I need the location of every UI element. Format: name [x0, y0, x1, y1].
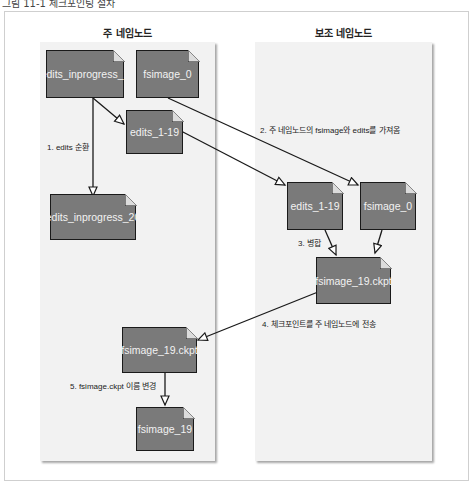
step-1-label: 1. edits 순환 — [47, 141, 89, 152]
page-fold-icon — [186, 327, 198, 339]
node-fsimage-0-secondary: fsimage_0 — [360, 182, 416, 230]
step-5-label: 5. fsimage.ckpt 이름 변경 — [70, 380, 156, 391]
node-fsimage-19-ckpt-secondary: fsimage_19.ckpt — [316, 257, 391, 304]
node-fsimage-0-primary: fsimage_0 — [136, 50, 199, 98]
page-fold-icon — [125, 194, 137, 206]
secondary-namenode-title: 보조 네임노드 — [255, 25, 432, 40]
page-fold-icon — [183, 407, 195, 419]
primary-namenode-title: 주 네임노드 — [40, 25, 215, 40]
page-fold-icon — [380, 257, 392, 269]
node-edits-1-19-secondary: edits_1-19 — [287, 182, 343, 230]
node-edits-inprogress-1: edits_inprogress_1 — [46, 50, 124, 98]
step-3-label: 3. 병합 — [298, 237, 321, 248]
node-fsimage-19: fsimage_19 — [136, 407, 194, 451]
page-fold-icon — [113, 50, 125, 62]
page-fold-icon — [172, 110, 184, 122]
node-fsimage-19-ckpt-primary: fsimage_19.ckpt — [122, 327, 197, 373]
node-edits-1-19-primary: edits_1-19 — [126, 110, 183, 154]
page-fold-icon — [188, 50, 200, 62]
step-2-label: 2. 주 네임노드의 fsimage와 edits를 가져옴 — [260, 124, 400, 135]
page-fold-icon — [332, 182, 344, 194]
figure-caption: 그림 11-1 체크포인팅 절차 — [2, 0, 115, 10]
secondary-namenode-panel — [255, 42, 432, 461]
node-edits-inprogress-20: edits_inprogress_20 — [50, 194, 136, 240]
step-4-label: 4. 체크포인트를 주 네임노드에 전송 — [262, 318, 376, 329]
page-fold-icon — [405, 182, 417, 194]
primary-namenode-panel — [40, 42, 215, 461]
